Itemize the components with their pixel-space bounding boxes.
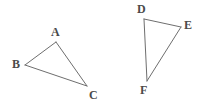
edge-ab: [25, 42, 56, 65]
vertex-label-e: E: [184, 19, 192, 31]
edge-fd: [144, 19, 147, 81]
geometry-canvas: [0, 0, 203, 111]
vertex-label-a: A: [51, 26, 60, 38]
geometry-figure: ABCDEF: [0, 0, 203, 111]
vertex-label-c: C: [89, 89, 98, 101]
shape-layer: [25, 19, 181, 86]
edge-ef: [147, 27, 181, 81]
edge-de: [144, 19, 181, 27]
edge-ca: [56, 42, 87, 86]
vertex-label-b: B: [12, 58, 20, 70]
edge-bc: [25, 65, 87, 86]
triangle-abc: [25, 42, 87, 86]
triangle-def: [144, 19, 181, 81]
vertex-label-d: D: [137, 3, 146, 15]
vertex-label-f: F: [140, 84, 147, 96]
